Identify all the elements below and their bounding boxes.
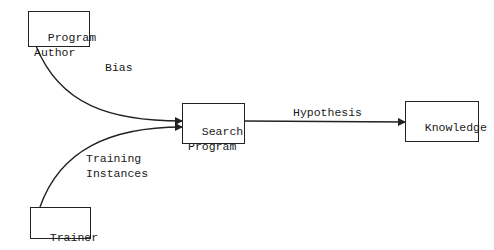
trainer-label: Trainer: [50, 231, 98, 244]
program-author-node: Program Author: [28, 11, 90, 47]
hypothesis-arrow: [244, 121, 405, 122]
search-program-node: Search Program: [182, 103, 245, 144]
knowledge-label: Knowledge: [425, 121, 487, 134]
knowledge-node: Knowledge: [405, 101, 479, 142]
bias-edge-label: Bias: [105, 60, 133, 75]
training-instances-edge-label: Training Instances: [86, 151, 148, 181]
trainer-node: Trainer: [30, 207, 91, 239]
hypothesis-edge-label: Hypothesis: [293, 105, 362, 120]
search-program-label: Search Program: [188, 125, 243, 153]
